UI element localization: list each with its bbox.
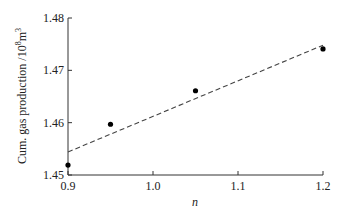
y-tick-label: 1.46	[43, 116, 64, 130]
x-tick-label: 1.0	[146, 179, 161, 193]
data-point	[320, 46, 325, 51]
x-tick-label: 1.1	[231, 179, 246, 193]
chart: 0.91.01.11.21.451.461.471.48 n Cum. gas …	[0, 0, 347, 213]
data-point	[193, 88, 198, 93]
x-tick-label: 1.2	[316, 179, 331, 193]
data-point	[108, 122, 113, 127]
x-axis-label: n	[192, 195, 198, 209]
y-tick-label: 1.47	[43, 63, 64, 77]
y-tick-label: 1.45	[43, 168, 64, 182]
y-axis-label: Cum. gas production /108m3	[14, 28, 29, 164]
dashed-trend-line	[68, 45, 323, 152]
fit-line	[68, 45, 323, 152]
data-points	[65, 46, 325, 167]
data-point	[65, 162, 70, 167]
axes	[68, 18, 323, 175]
y-tick-label: 1.48	[43, 11, 64, 25]
